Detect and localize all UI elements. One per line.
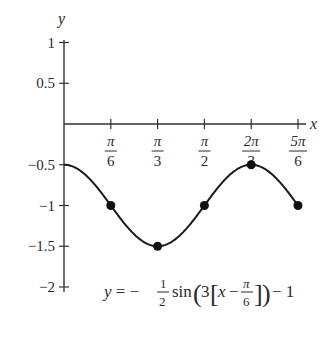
eq-equals: = − <box>116 282 139 301</box>
x-tick-numerator: π <box>154 133 162 149</box>
x-tick-numerator: 5π <box>290 133 306 149</box>
data-point <box>200 201 209 210</box>
eq-tail: − 1 <box>272 282 294 301</box>
eq-pi-den: 6 <box>243 294 250 309</box>
x-tick-denominator: 3 <box>154 153 162 169</box>
y-tick-label: 0.5 <box>36 75 55 91</box>
x-tick-numerator: π <box>201 133 209 149</box>
x-tick-denominator: 6 <box>294 153 302 169</box>
equation-label: y = − 1 2 sin ( 3 [ x − π 6 ] ) − 1 <box>102 276 294 309</box>
y-tick-label: −0.5 <box>28 157 55 173</box>
y-axis-label: y <box>56 10 66 28</box>
marked-points <box>106 160 302 251</box>
y-tick-label: −2 <box>39 279 55 295</box>
eq-three: 3 <box>201 282 210 301</box>
data-point <box>106 201 115 210</box>
function-plot: y x π6π3π22π35π6 10.5−0.5−1−1.5−2 y = − … <box>0 0 326 344</box>
x-ticks: π6π3π22π35π6 <box>105 119 307 169</box>
x-tick-denominator: 2 <box>201 153 209 169</box>
data-point <box>294 201 303 210</box>
x-tick-numerator: 2π <box>244 133 260 149</box>
y-tick-label: −1 <box>39 198 55 214</box>
eq-sin: sin <box>172 282 192 301</box>
x-tick-denominator: 6 <box>107 153 115 169</box>
svg-text:y = −: y = − <box>102 282 139 301</box>
y-tick-label: 1 <box>48 35 56 51</box>
eq-minus: − <box>229 282 239 301</box>
sine-curve <box>64 165 298 247</box>
eq-x-minus: x <box>217 282 226 301</box>
eq-y: y <box>102 282 112 301</box>
y-tick-label: −1.5 <box>28 238 55 254</box>
y-ticks: 10.5−0.5−1−1.5−2 <box>28 35 69 296</box>
eq-close-paren: ) <box>262 279 271 308</box>
x-tick-numerator: π <box>107 133 115 149</box>
data-point <box>247 160 256 169</box>
data-point <box>153 242 162 251</box>
eq-pi-num: π <box>243 276 250 291</box>
eq-half-num: 1 <box>160 276 167 291</box>
x-axis-label: x <box>309 115 317 132</box>
eq-half-den: 2 <box>159 294 166 309</box>
